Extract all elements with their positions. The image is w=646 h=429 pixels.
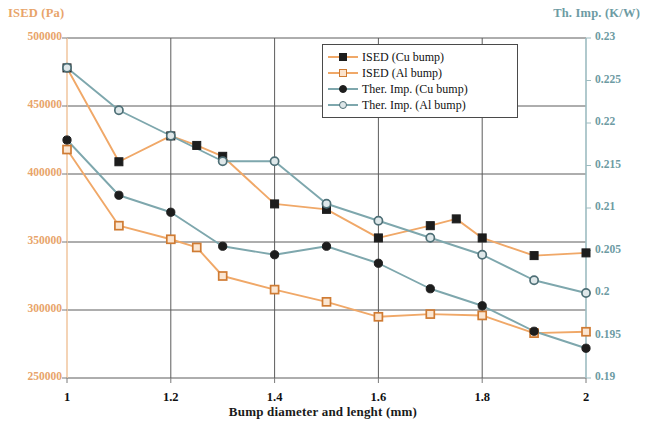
data-point	[323, 298, 331, 306]
data-point	[271, 286, 279, 294]
data-point	[219, 157, 227, 165]
right-axis-tick-label: 0.21	[586, 200, 646, 212]
right-axis-tick-labels: 0.230.2250.220.2150.210.2050.20.1950.19	[586, 0, 646, 429]
right-axis-tick-label: 0.195	[586, 328, 646, 340]
left-axis-tick-label: 450000	[0, 98, 62, 110]
data-point	[167, 235, 175, 243]
x-axis-title: Bump diameter and lenght (mm)	[0, 404, 646, 420]
legend-marker-circle-open-icon	[339, 101, 347, 109]
legend-swatch	[328, 98, 358, 112]
chart-canvas: ISED (Pa) Th. Imp. (K/W) 500000450000400…	[0, 0, 646, 429]
legend-marker-circle-filled-icon	[339, 85, 347, 93]
left-axis-tick-label: 300000	[0, 302, 62, 314]
right-axis-tick-label: 0.19	[586, 370, 646, 382]
right-axis-tick-label: 0.215	[586, 158, 646, 170]
data-point	[167, 208, 175, 216]
data-point	[452, 215, 460, 223]
right-axis-tick-label: 0.23	[586, 30, 646, 42]
legend-label: Ther. Imp. (Al bump)	[362, 98, 466, 112]
data-point	[426, 285, 434, 293]
right-axis-tick-label: 0.2	[586, 285, 646, 297]
data-point	[63, 64, 71, 72]
left-axis-tick-label: 400000	[0, 166, 62, 178]
data-point	[374, 234, 382, 242]
data-point	[115, 158, 123, 166]
data-point	[530, 252, 538, 260]
data-point	[478, 311, 486, 319]
left-axis-tick-label: 500000	[0, 30, 62, 42]
legend-marker-square-open-icon	[339, 69, 347, 77]
data-point	[426, 222, 434, 230]
left-axis-tick-labels: 500000450000400000350000300000250000	[0, 0, 62, 429]
data-point	[374, 217, 382, 225]
data-point	[530, 276, 538, 284]
data-point	[271, 157, 279, 165]
legend-item: Ther. Imp. (Cu bump)	[328, 81, 511, 97]
data-point	[63, 136, 71, 144]
left-axis-tick-label: 350000	[0, 234, 62, 246]
data-point	[322, 200, 330, 208]
x-axis-tick-label: 1.2	[151, 390, 191, 405]
legend-item: ISED (Al bump)	[328, 65, 511, 81]
x-axis-tick-label: 1.6	[358, 390, 398, 405]
legend: ISED (Cu bump)ISED (Al bump)Ther. Imp. (…	[322, 44, 518, 118]
data-point	[219, 272, 227, 280]
data-point	[63, 146, 71, 154]
data-point	[374, 259, 382, 267]
x-axis-tick-label: 1	[47, 390, 87, 405]
x-axis-tick-label: 2	[566, 390, 606, 405]
data-point	[530, 327, 538, 335]
legend-label: ISED (Cu bump)	[362, 50, 444, 64]
data-point	[167, 132, 175, 140]
data-point	[322, 242, 330, 250]
legend-swatch	[328, 50, 358, 64]
legend-item: ISED (Cu bump)	[328, 49, 511, 65]
legend-swatch	[328, 66, 358, 80]
legend-label: Ther. Imp. (Cu bump)	[362, 82, 468, 96]
data-point	[374, 313, 382, 321]
right-axis-tick-label: 0.225	[586, 73, 646, 85]
legend-item: Ther. Imp. (Al bump)	[328, 97, 511, 113]
left-axis-tick-label: 250000	[0, 370, 62, 382]
data-point	[271, 200, 279, 208]
data-point	[193, 243, 201, 251]
legend-label: ISED (Al bump)	[362, 66, 442, 80]
right-axis-tick-label: 0.205	[586, 243, 646, 255]
x-axis-tick-labels: 11.21.41.61.82	[0, 382, 646, 404]
right-axis-tick-label: 0.22	[586, 115, 646, 127]
data-point	[193, 141, 201, 149]
x-axis-tick-label: 1.8	[462, 390, 502, 405]
data-point	[478, 302, 486, 310]
data-point	[271, 251, 279, 259]
data-point	[478, 234, 486, 242]
data-point	[478, 251, 486, 259]
data-point	[219, 242, 227, 250]
data-point	[115, 191, 123, 199]
legend-marker-square-filled-icon	[339, 53, 347, 61]
legend-swatch	[328, 82, 358, 96]
data-point	[426, 234, 434, 242]
data-point	[115, 222, 123, 230]
data-point	[426, 310, 434, 318]
x-axis-tick-label: 1.4	[255, 390, 295, 405]
data-point	[115, 106, 123, 114]
